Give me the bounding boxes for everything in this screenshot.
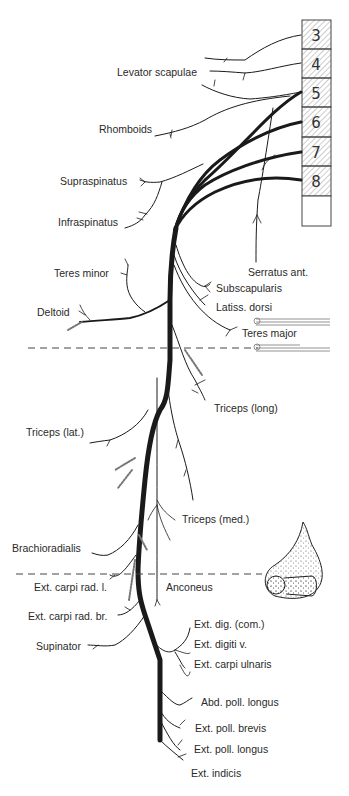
label-anconeus: Anconeus [166, 581, 213, 593]
label-serratus-ant: Serratus ant. [248, 266, 308, 278]
label-triceps-long: Triceps (long) [214, 402, 278, 414]
segment-c8-label: 8 [311, 173, 321, 191]
label-supinator: Supinator [36, 640, 81, 652]
segment-c7-label: 7 [311, 144, 321, 162]
label-teres-major: Teres major [242, 327, 297, 339]
segment-c3-label: 3 [311, 27, 321, 45]
label-ext-dig-com: Ext. dig. (com.) [194, 618, 265, 630]
elbow-bone [265, 522, 322, 598]
nerve-branches [68, 35, 301, 760]
label-latiss-dorsi: Latiss. dorsi [216, 301, 272, 313]
label-brachioradialis: Brachioradialis [12, 542, 81, 554]
label-triceps-lat: Triceps (lat.) [26, 426, 84, 438]
radial-nerve-diagram: 3 4 5 6 7 8 [0, 0, 349, 796]
label-teres-minor: Teres minor [54, 267, 109, 279]
label-levator-scapulae: Levator scapulae [117, 66, 197, 78]
label-triceps-med: Triceps (med.) [182, 513, 249, 525]
label-ext-indicis: Ext. indicis [191, 767, 241, 779]
label-deltoid: Deltoid [37, 306, 70, 318]
segment-c6-label: 6 [311, 114, 321, 132]
segment-c4-label: 4 [311, 56, 321, 74]
segment-c5-label: 5 [311, 85, 321, 103]
nerve-drawing: 3 4 5 6 7 8 [0, 0, 349, 796]
label-ext-poll-brevis: Ext. poll. brevis [195, 722, 266, 734]
label-infraspinatus: Infraspinatus [58, 216, 118, 228]
label-ext-carpi-ulnaris: Ext. carpi ulnaris [194, 658, 272, 670]
label-abd-poll-longus: Abd. poll. longus [201, 696, 279, 708]
label-supraspinatus: Supraspinatus [60, 175, 127, 187]
label-ext-carpi-rad-br: Ext. carpi rad. br. [28, 610, 107, 622]
label-subscapularis: Subscapularis [216, 282, 282, 294]
label-ext-carpi-rad-l: Ext. carpi rad. l. [34, 581, 107, 593]
spinal-segment-column: 3 4 5 6 7 8 [302, 20, 331, 226]
label-ext-digiti-v: Ext. digiti v. [194, 638, 247, 650]
label-rhomboids: Rhomboids [99, 123, 152, 135]
label-ext-poll-longus: Ext. poll. longus [194, 743, 268, 755]
